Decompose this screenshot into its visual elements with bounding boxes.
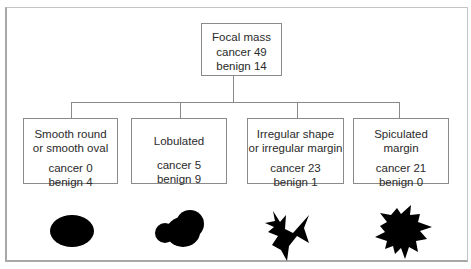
node-title-line1: Lobulated [132, 134, 226, 148]
node-title-line1: Spiculated [354, 127, 448, 141]
node-irregular-shape-margin: Irregular shape or irregular margin canc… [247, 118, 344, 184]
root-title: Focal mass [202, 30, 281, 44]
root-node-focal-mass: Focal mass cancer 49 benign 14 [201, 23, 282, 76]
branch-line-3 [297, 102, 298, 118]
node-title-line2: margin [354, 141, 448, 155]
branch-line-2 [180, 102, 181, 118]
root-stem-line [233, 76, 234, 103]
lobulated-shape-icon [150, 205, 210, 255]
node-title-line2: or smooth oval [24, 141, 117, 155]
root-benign-count: benign 14 [202, 59, 281, 73]
node-spiculated-margin: Spiculated margin cancer 21 benign 0 [353, 118, 449, 184]
irregular-shape-icon [263, 203, 323, 263]
node-benign-count: benign 0 [354, 175, 448, 189]
root-cancer-count: cancer 49 [202, 45, 281, 59]
branch-line-4 [399, 102, 400, 118]
node-benign-count: benign 1 [248, 175, 343, 189]
node-cancer-count: cancer 0 [24, 161, 117, 175]
node-benign-count: benign 4 [24, 175, 117, 189]
node-benign-count: benign 9 [132, 172, 226, 186]
oval-shape-icon [48, 210, 98, 250]
branch-line-1 [71, 102, 72, 118]
node-cancer-count: cancer 5 [132, 158, 226, 172]
node-cancer-count: cancer 23 [248, 161, 343, 175]
spiculated-shape-icon [375, 202, 435, 264]
node-title-line1: Smooth round [24, 127, 117, 141]
node-smooth-round-oval: Smooth round or smooth oval cancer 0 ben… [23, 118, 118, 184]
node-lobulated: Lobulated cancer 5 benign 9 [131, 118, 227, 184]
node-title-line1: Irregular shape [248, 127, 343, 141]
horizontal-connector-line [71, 102, 400, 103]
node-cancer-count: cancer 21 [354, 161, 448, 175]
node-title-line2: or irregular margin [248, 141, 343, 155]
